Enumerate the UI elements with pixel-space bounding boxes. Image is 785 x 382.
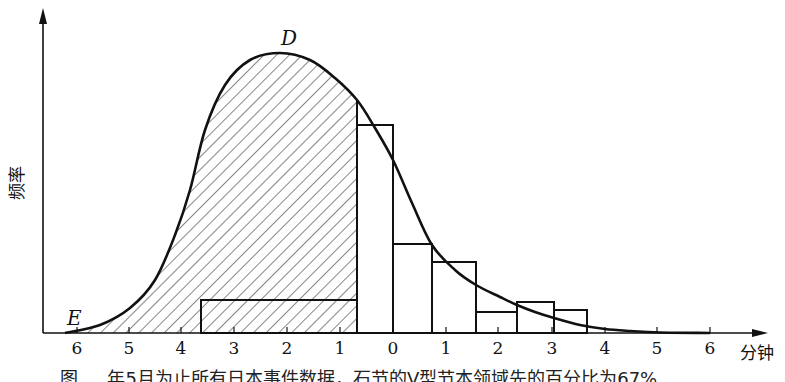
x-axis-unit-label: 分钟 bbox=[740, 343, 774, 363]
x-tick-label: 6 bbox=[72, 338, 83, 358]
histogram-bar bbox=[432, 262, 476, 333]
frequency-chart: 6543210123456 频率 分钟 D E bbox=[0, 0, 785, 382]
y-axis-label: 频率 bbox=[7, 166, 27, 200]
y-axis-arrow-icon bbox=[39, 8, 47, 24]
x-tick-label: 4 bbox=[176, 338, 187, 358]
x-tick-label: 5 bbox=[652, 338, 663, 358]
x-tick-label: 3 bbox=[229, 338, 240, 358]
x-tick-label: 1 bbox=[335, 338, 346, 358]
x-tick-label: 1 bbox=[441, 338, 452, 358]
x-tick-label: 2 bbox=[493, 338, 504, 358]
point-label-e: E bbox=[66, 306, 82, 330]
x-axis-arrow-icon bbox=[752, 329, 768, 337]
histogram-bar bbox=[357, 125, 393, 333]
x-tick-label: 2 bbox=[282, 338, 293, 358]
x-tick-label: 4 bbox=[600, 338, 611, 358]
x-tick-label: 3 bbox=[547, 338, 558, 358]
histogram-bar bbox=[476, 312, 517, 333]
x-tick-label: 6 bbox=[705, 338, 716, 358]
histogram-bar bbox=[393, 244, 432, 333]
figure-caption: 图 … 年5月为止所有日本事件数据，石节的V型节本领域先的百分比为67% bbox=[60, 366, 780, 382]
point-label-d: D bbox=[280, 26, 297, 50]
x-tick-label: 5 bbox=[124, 338, 135, 358]
x-tick-label: 0 bbox=[388, 338, 399, 358]
